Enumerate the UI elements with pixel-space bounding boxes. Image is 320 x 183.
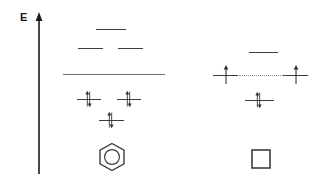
benzene-hexagon-icon: [97, 142, 127, 172]
mo-level-benzene-antibonding-degenerate-left: [78, 48, 103, 49]
mo-level-benzene-nonbonding-reference-line: [63, 74, 165, 75]
electron-arrow-pair-benzene-lowest: [107, 110, 114, 130]
electron-arrow-pair-cyclobutadiene-lowest: [255, 90, 262, 110]
mo-level-cyclobutadiene-antibonding-upper: [249, 52, 278, 53]
mo-level-benzene-antibonding-upper: [96, 29, 126, 30]
mo-level-benzene-antibonding-degenerate-right: [118, 48, 143, 49]
electron-arrow-pair-benzene-bonding-right: [125, 89, 132, 109]
energy-axis-label: E: [20, 10, 27, 24]
electron-arrow-single-cyclobutadiene-somo-right: [293, 65, 300, 85]
mo-diagram-figure: E: [0, 0, 320, 183]
energy-axis-arrow-icon: [35, 12, 43, 174]
electron-arrow-single-cyclobutadiene-somo-left: [223, 65, 230, 85]
electron-arrow-pair-benzene-bonding-left: [85, 89, 92, 109]
degenerate-somo-connector: [239, 75, 283, 76]
cyclobutadiene-square-icon: [250, 148, 272, 170]
